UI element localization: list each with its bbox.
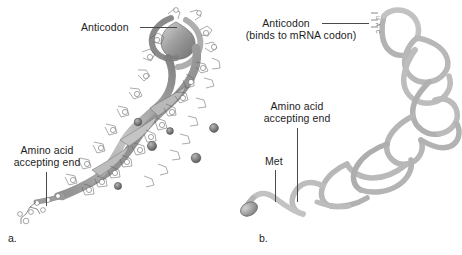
panel-b-amino-acid-label-line2: accepting end — [259, 112, 335, 125]
panel-a-amino-acid-label-line2: accepting end — [9, 156, 85, 169]
panel-b-anticodon-label-line1: Anticodon — [236, 17, 336, 30]
panel-a-anticodon-leader — [140, 27, 177, 28]
met-bead — [238, 199, 260, 219]
panel-a-label: a. — [8, 232, 17, 244]
panel-b-label: b. — [259, 232, 268, 244]
svg-text:U: U — [375, 16, 381, 20]
panel-a-amino-acid-leader — [46, 172, 47, 206]
panel-b-met-leader — [275, 170, 276, 202]
panel-b-met-label: Met — [265, 155, 283, 168]
panel-a-amino-acid-label-line1: Amino acid — [9, 144, 85, 157]
panel-b-amino-acid-label-line1: Amino acid — [259, 100, 335, 113]
svg-text:C: C — [375, 30, 381, 34]
panel-a-molecular-model — [0, 0, 231, 255]
panel-b-amino-acid-leader — [297, 128, 298, 202]
panel-b-anticodon-leader — [322, 23, 369, 24]
panel-b-anticodon-label-line2: (binds to mRNA codon) — [231, 29, 371, 42]
panel-a-anticodon-label: Anticodon — [81, 21, 129, 34]
anticodon-base-letters: U A C — [375, 16, 381, 34]
trna-structure-figure: Anticodon Amino acid accepting end a. — [0, 0, 462, 255]
